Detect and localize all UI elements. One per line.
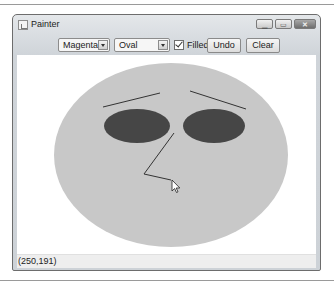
window-title: Painter [31, 19, 60, 29]
face-oval [54, 63, 288, 247]
close-button[interactable]: ✕ [294, 19, 316, 29]
close-icon: ✕ [295, 20, 315, 28]
right-eye-oval [183, 109, 245, 143]
shape-select-value: Oval [119, 40, 138, 50]
cursor-coordinates: (250,191) [18, 256, 57, 266]
clear-button[interactable]: Clear [246, 38, 280, 53]
maximize-button[interactable]: ▭ [275, 19, 292, 29]
maximize-icon: ▭ [276, 20, 291, 28]
painter-window: Painter ▁ ▭ ✕ Magenta Oval Filled Undo C… [12, 14, 321, 271]
color-select[interactable]: Magenta [58, 38, 110, 52]
shape-select[interactable]: Oval [114, 38, 170, 52]
toolbar: Magenta Oval Filled Undo Clear [13, 35, 320, 55]
filled-checkbox[interactable] [174, 40, 184, 50]
chevron-down-icon[interactable] [98, 40, 108, 50]
bottom-divider [0, 280, 334, 281]
undo-button[interactable]: Undo [207, 38, 241, 53]
minimize-button[interactable]: ▁ [256, 19, 273, 29]
drawing-canvas[interactable] [17, 55, 316, 254]
title-bar[interactable]: Painter ▁ ▭ ✕ [13, 15, 320, 35]
filled-label[interactable]: Filled [187, 40, 209, 50]
left-eye-oval [104, 109, 170, 143]
status-bar: (250,191) [17, 254, 316, 268]
window-controls: ▁ ▭ ✕ [256, 19, 316, 29]
top-divider [0, 4, 334, 5]
color-select-value: Magenta [63, 40, 98, 50]
app-icon [18, 20, 28, 30]
canvas-drawing[interactable] [17, 55, 316, 254]
chevron-down-icon[interactable] [158, 40, 168, 50]
checkmark-icon [175, 40, 183, 48]
minimize-icon: ▁ [257, 20, 272, 28]
